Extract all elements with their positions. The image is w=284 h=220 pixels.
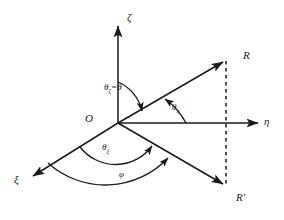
theta-xi-subscript: ξ bbox=[106, 147, 109, 154]
theta-zeta-suffix: =θ bbox=[111, 82, 122, 92]
origin-label: O bbox=[85, 113, 93, 124]
vector-R-prime-line bbox=[118, 123, 223, 184]
eta-axis-label: η bbox=[264, 116, 269, 127]
angle-phi-label: φ bbox=[119, 170, 124, 179]
vector-R-line bbox=[118, 62, 223, 123]
angle-theta-zeta-label: θζ=θ bbox=[104, 83, 122, 94]
arc-phi bbox=[48, 158, 168, 185]
vector-R-prime-label: R′ bbox=[236, 192, 245, 203]
angle-theta-eta-label: θη bbox=[172, 103, 180, 114]
diagram-canvas bbox=[0, 0, 284, 220]
vector-R-label: R bbox=[243, 50, 250, 61]
zeta-axis-label: ζ bbox=[127, 12, 131, 23]
arc-theta-xi bbox=[80, 146, 152, 165]
coordinate-system-diagram: ζ η ξ O R R′ θζ=θ θη θξ φ bbox=[0, 0, 284, 220]
theta-eta-subscript: η bbox=[176, 107, 179, 114]
xi-axis-label: ξ bbox=[14, 174, 19, 185]
angle-theta-xi-label: θξ bbox=[102, 143, 109, 154]
